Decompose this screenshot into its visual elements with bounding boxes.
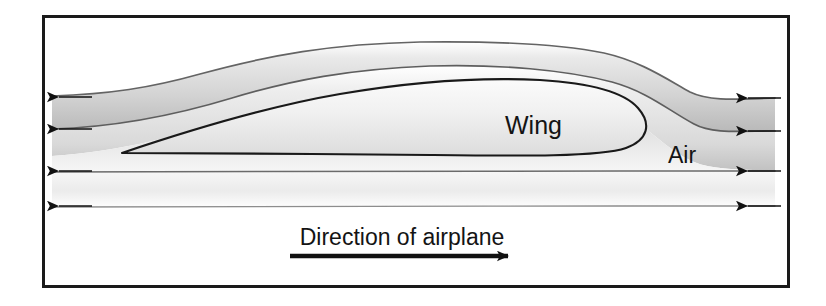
wing-label: Wing [505,111,562,139]
airflow-diagram: Wing Air Direction of airplane [0,0,826,306]
direction-of-airplane-label: Direction of airplane [300,224,505,250]
air-label: Air [668,142,696,168]
figure-root: Wing Air Direction of airplane [0,0,826,306]
flow-band-lower [52,171,775,207]
